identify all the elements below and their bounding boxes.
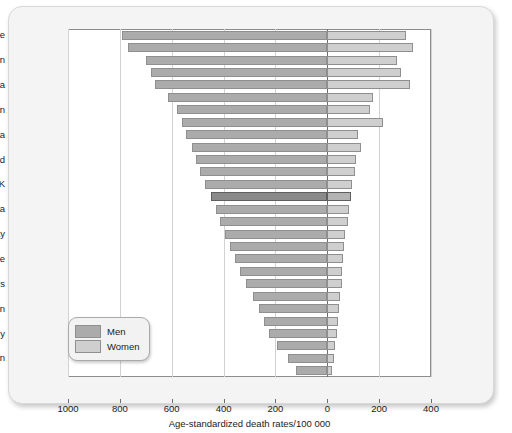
bar-men	[177, 105, 327, 114]
bar-men	[151, 68, 327, 77]
x-axis-title: Age-standardized death rates/100 000	[68, 418, 431, 429]
x-tick-label: 1000	[57, 403, 78, 414]
bar-women	[327, 205, 349, 214]
x-tick-label: 200	[267, 403, 283, 414]
bar-women	[327, 329, 337, 338]
bar-women	[327, 31, 406, 40]
y-axis-label-japan: Japan	[0, 353, 5, 363]
bar-women	[327, 56, 397, 65]
y-axis-label-ukraine: Ukraine	[0, 30, 5, 40]
bar-men	[155, 80, 327, 89]
bar-women	[327, 118, 383, 127]
y-axis-label-uk: UK	[0, 179, 5, 189]
bar-women	[327, 292, 340, 301]
bar-men	[269, 329, 327, 338]
bar-men	[253, 292, 327, 301]
bar-men	[196, 155, 327, 164]
legend-swatch-women	[75, 340, 101, 353]
bar-women	[327, 155, 356, 164]
y-axis-label-kazakstan: Kazakstan	[0, 55, 5, 65]
bar-men	[246, 279, 328, 288]
bar-men	[259, 304, 328, 313]
bar-women	[327, 180, 352, 189]
x-tick-label: 800	[112, 403, 128, 414]
bar-men	[230, 242, 327, 251]
bar-women	[327, 366, 332, 375]
legend-label-men: Men	[107, 326, 125, 337]
bar-women	[327, 130, 358, 139]
bar-men	[240, 267, 327, 276]
y-axis-label-romania: Romania	[0, 130, 5, 140]
bar-men	[296, 366, 327, 375]
x-tick-label: 600	[164, 403, 180, 414]
bar-women	[327, 304, 339, 313]
bar-women	[327, 230, 345, 239]
bar-men	[192, 143, 327, 152]
bar-men	[216, 205, 327, 214]
x-tick-label: 0	[325, 403, 330, 414]
bar-women	[327, 254, 343, 263]
bar-women	[327, 341, 335, 350]
bar-women	[327, 105, 370, 114]
bar-women	[327, 93, 372, 102]
bar-men	[186, 130, 327, 139]
bar-men	[128, 43, 328, 52]
bar-men	[182, 118, 327, 127]
bar-men	[200, 167, 327, 176]
bar-women	[327, 317, 338, 326]
bar-men	[146, 56, 328, 65]
y-axis-label-spain: Spain	[0, 304, 5, 314]
y-axis-label-greece: Greece	[0, 254, 5, 264]
bar-men	[211, 192, 328, 201]
y-axis-label-netherlands: Netherlands	[0, 279, 5, 289]
x-tick-label: 400	[216, 403, 232, 414]
y-axis-label-austria: Austria	[0, 204, 5, 214]
bar-men	[264, 317, 328, 326]
bar-women	[327, 167, 354, 176]
bar-women	[327, 143, 361, 152]
legend-label-women: Women	[107, 341, 140, 352]
bar-men	[277, 341, 328, 350]
y-axis-label-estonia: Estonia	[0, 80, 5, 90]
legend-item-men: Men	[75, 325, 140, 338]
bar-men	[220, 217, 328, 226]
bar-men	[205, 180, 327, 189]
y-axis-label-ireland: Ireland	[0, 155, 5, 165]
y-axis-label-krygyzstan: Krygyzstan	[0, 105, 5, 115]
bar-women	[327, 354, 333, 363]
x-tick-label: 400	[423, 403, 439, 414]
legend-item-women: Women	[75, 340, 140, 353]
bar-men	[288, 354, 327, 363]
bar-women	[327, 279, 341, 288]
bar-women	[327, 192, 350, 201]
bar-men	[235, 254, 327, 263]
figure-panel: UkraineKazakstanEstoniaKrygyzstanRomania…	[8, 6, 494, 404]
bar-women	[327, 217, 348, 226]
bar-women	[327, 267, 342, 276]
bar-women	[327, 242, 344, 251]
bar-women	[327, 43, 413, 52]
bar-men	[122, 31, 327, 40]
y-axis-label-norway: Norway	[0, 229, 5, 239]
legend-swatch-men	[75, 325, 101, 338]
bar-men	[168, 93, 327, 102]
bar-women	[327, 80, 410, 89]
x-tick-label: 200	[371, 403, 387, 414]
y-axis-label-italy: Italy	[0, 329, 5, 339]
legend: Men Women	[68, 317, 150, 361]
bar-women	[327, 68, 401, 77]
gridline-400	[431, 29, 432, 377]
bar-men	[225, 230, 327, 239]
